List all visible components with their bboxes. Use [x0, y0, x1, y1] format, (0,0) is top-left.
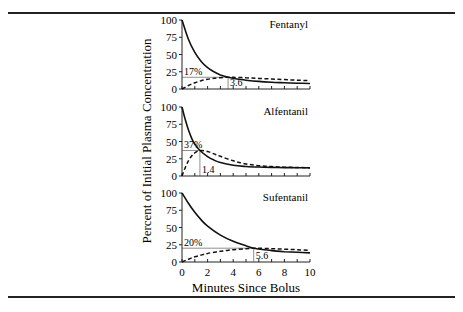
x-axis-title: Minutes Since Bolus — [192, 280, 300, 295]
panel-alfentanil-title: Alfentanil — [263, 105, 308, 117]
y-tick-label: 75 — [166, 31, 178, 43]
y-tick-label: 25 — [166, 153, 178, 165]
y-tick-label: 25 — [166, 66, 178, 78]
y-tick-label: 50 — [166, 49, 178, 61]
y-tick-label: 75 — [166, 118, 178, 130]
y-axis-title: Percent of Initial Plasma Concentration — [139, 38, 154, 244]
panel-sufentanil-peak-time-label: 5.6 — [256, 250, 269, 261]
x-tick-label: 2 — [205, 266, 211, 278]
x-tick-label: 6 — [256, 266, 262, 278]
y-tick-label: 100 — [161, 101, 178, 113]
y-tick-label: 75 — [166, 204, 178, 216]
panel-alfentanil-peak-time-label: 1.4 — [202, 164, 215, 175]
y-tick-label: 25 — [166, 239, 178, 251]
chart-canvas: 0255075100Fentanyl17%3.60255075100Alfent… — [0, 0, 463, 312]
x-tick-label: 4 — [230, 266, 236, 278]
x-tick-label: 8 — [282, 266, 288, 278]
panel-sufentanil-peak-label: 20% — [184, 237, 202, 248]
y-tick-label: 0 — [172, 83, 178, 95]
x-tick-label: 10 — [305, 266, 317, 278]
panel-fentanyl-title: Fentanyl — [270, 18, 309, 30]
y-tick-label: 50 — [166, 136, 178, 148]
y-tick-label: 0 — [172, 256, 178, 268]
y-tick-label: 100 — [161, 187, 178, 199]
panel-sufentanil-title: Sufentanil — [263, 191, 308, 203]
y-tick-label: 50 — [166, 222, 178, 234]
panel-fentanyl-peak-label: 17% — [184, 66, 202, 77]
y-tick-label: 100 — [161, 14, 178, 26]
y-tick-label: 0 — [172, 170, 178, 182]
x-tick-label: 0 — [179, 266, 185, 278]
